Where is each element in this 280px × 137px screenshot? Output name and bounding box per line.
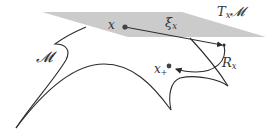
label-point-x-plus: x+ <box>154 63 167 77</box>
manifold-curve <box>16 26 174 128</box>
point-x <box>122 24 127 29</box>
diagram-canvas <box>0 0 280 137</box>
label-retraction: Rx <box>222 56 237 71</box>
label-x-plus-text: x <box>154 62 161 76</box>
label-point-x-text: x <box>108 18 115 32</box>
label-tangent-space: Tx𝓜 <box>217 5 245 20</box>
label-tangent-vector: ξx <box>165 16 177 31</box>
label-xi-sub: x <box>172 21 177 31</box>
label-retraction-sub: x <box>232 61 237 71</box>
label-manifold-text: 𝓜 <box>36 48 53 66</box>
label-tangent-space-M: 𝓜 <box>230 4 245 19</box>
label-point-x: x <box>108 19 115 31</box>
manifold-lower-right-edge <box>170 77 228 110</box>
manifold-left-edge <box>16 27 86 128</box>
vector-tip-point <box>222 43 225 46</box>
label-x-plus-sub: + <box>161 68 168 77</box>
label-tangent-space-T: T <box>217 4 226 19</box>
label-manifold: 𝓜 <box>36 50 53 65</box>
label-retraction-R: R <box>222 55 232 70</box>
